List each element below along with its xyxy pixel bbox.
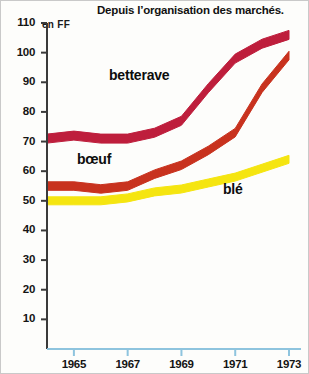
y-tick-label-70: 70 <box>7 135 35 147</box>
x-tick-label-1965: 1965 <box>62 358 86 370</box>
y-tick-label-100: 100 <box>7 46 35 58</box>
y-tick-label-40: 40 <box>7 223 35 235</box>
series-label-betterave: betterave <box>109 67 169 83</box>
y-tick-label-60: 60 <box>7 164 35 176</box>
series-ribbon-betterave <box>47 30 289 143</box>
x-tick-label-1969: 1969 <box>169 358 193 370</box>
series-label-ble: blé <box>223 181 243 197</box>
x-tick-label-1973: 1973 <box>277 358 301 370</box>
y-tick-label-80: 80 <box>7 105 35 117</box>
series-label-boeuf: bœuf <box>77 151 111 167</box>
y-tick-label-30: 30 <box>7 253 35 265</box>
plot-area <box>1 1 309 374</box>
y-tick-label-10: 10 <box>7 312 35 324</box>
x-tick-label-1967: 1967 <box>115 358 139 370</box>
y-tick-label-50: 50 <box>7 194 35 206</box>
chart-figure: Depuis l’organisation des marchés. en FF… <box>0 0 309 374</box>
y-tick-label-20: 20 <box>7 283 35 295</box>
x-tick-label-1971: 1971 <box>223 358 247 370</box>
y-tick-label-110: 110 <box>7 16 35 28</box>
y-tick-label-90: 90 <box>7 75 35 87</box>
series-ribbons <box>47 30 289 204</box>
